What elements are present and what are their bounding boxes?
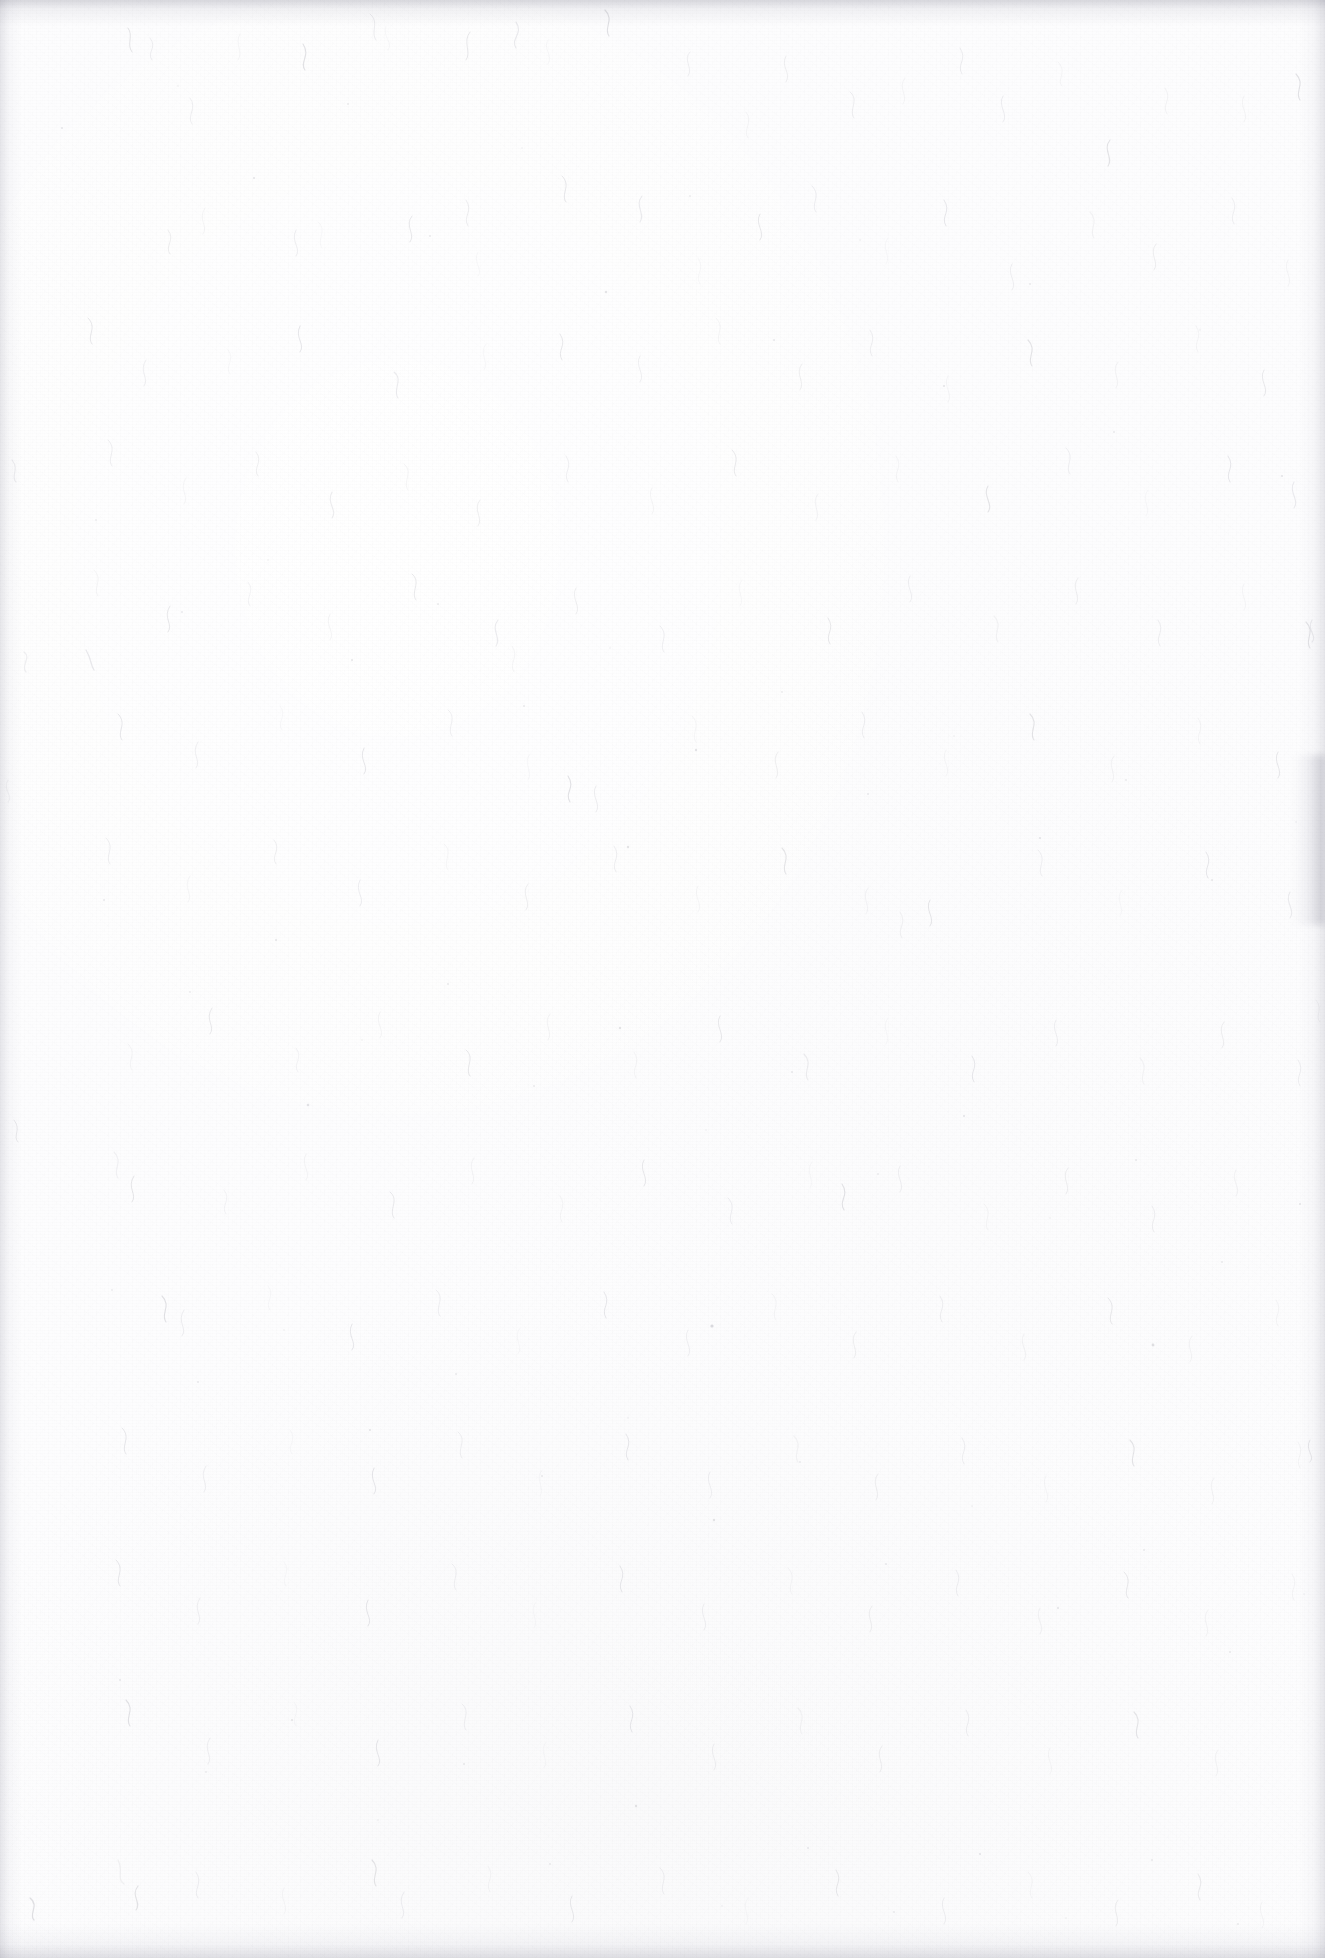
page-content-area — [120, 150, 1205, 1808]
page-content-text — [120, 150, 1205, 1808]
scanned-page — [0, 0, 1325, 1958]
